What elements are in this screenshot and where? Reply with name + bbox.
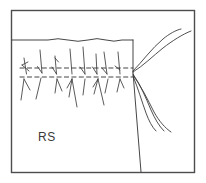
right-side-label: RS bbox=[38, 130, 56, 144]
figure-frame-border bbox=[12, 11, 195, 173]
serged-seam-figure: RS bbox=[0, 0, 206, 183]
figure-canvas: RS bbox=[0, 0, 206, 183]
